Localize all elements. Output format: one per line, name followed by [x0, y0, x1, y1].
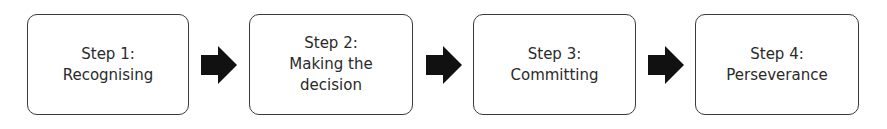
step-1-label: Recognising [63, 65, 154, 86]
step-4-title: Step 4: [750, 44, 804, 65]
step-2-box: Step 2: Making the decision [249, 14, 413, 115]
step-3-label: Committing [510, 65, 598, 86]
arrow-right-icon [201, 46, 237, 84]
step-3-box: Step 3: Committing [473, 14, 636, 115]
step-2-label-line-2: decision [300, 75, 362, 96]
step-2-title: Step 2: [304, 33, 358, 54]
arrow-right-icon [648, 46, 684, 84]
step-1-title: Step 1: [81, 44, 135, 65]
step-4-label: Perseverance [726, 65, 827, 86]
step-1-box: Step 1: Recognising [27, 14, 189, 115]
arrow-right-icon [426, 46, 462, 84]
step-3-title: Step 3: [528, 44, 582, 65]
step-2-label-line-1: Making the [289, 54, 372, 75]
step-4-box: Step 4: Perseverance [695, 14, 859, 115]
